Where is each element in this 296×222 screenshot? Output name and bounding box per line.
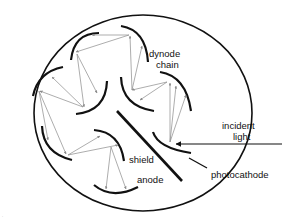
anode-arc bbox=[94, 185, 138, 193]
dynode-8 bbox=[94, 130, 124, 161]
photocathode-pointer bbox=[189, 158, 207, 168]
dynode-5 bbox=[76, 81, 107, 114]
label-shield: shield bbox=[129, 154, 154, 165]
label-incident: incident bbox=[222, 120, 255, 131]
dynode-2 bbox=[121, 26, 148, 62]
dynode-6 bbox=[33, 67, 63, 96]
pmt-diagram: dynode chain incident light shield anode… bbox=[0, 0, 296, 222]
label-anode: anode bbox=[137, 174, 163, 185]
label-dynode: dynode bbox=[149, 48, 180, 59]
label-chain: chain bbox=[156, 59, 179, 70]
label-light: light bbox=[233, 131, 251, 142]
corner-mark: . bbox=[2, 213, 3, 218]
label-photocathode: photocathode bbox=[211, 169, 269, 180]
